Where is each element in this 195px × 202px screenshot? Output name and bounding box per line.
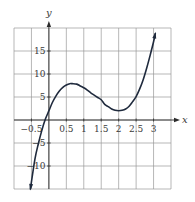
curve-end-arrow-icon — [152, 32, 156, 39]
x-axis-label: x — [182, 114, 188, 125]
x-tick-label: 0.5 — [59, 124, 74, 134]
y-tick-label: 5 — [40, 92, 46, 102]
y-tick-label: 15 — [34, 46, 46, 56]
x-tick-label: 1 — [81, 124, 87, 134]
x-tick-label: −0.5 — [21, 124, 43, 134]
x-tick-label: 1.5 — [94, 124, 109, 134]
cubic-function-graph: x y −0.50.511.522.5315105−5−10 — [0, 0, 195, 202]
y-tick-label: 10 — [34, 69, 46, 79]
y-tick-label: −10 — [26, 161, 45, 171]
curves — [29, 32, 156, 190]
x-tick-label: 2 — [116, 124, 122, 134]
y-axis-arrow-icon — [47, 21, 51, 27]
x-axis-arrow-icon — [174, 118, 180, 122]
x-tick-label: 2.5 — [129, 124, 144, 134]
x-tick-label: 3 — [151, 124, 157, 134]
y-axis-label: y — [45, 7, 52, 18]
